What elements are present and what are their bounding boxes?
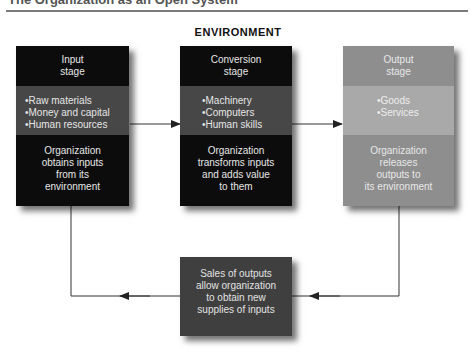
input-stage-title-line1: Input [16,54,129,66]
input-item-money-capital: •Money and capital [25,107,129,119]
output-desc-line: outputs to [343,169,454,181]
input-stage-title-line2: stage [16,66,129,78]
input-desc-line: Organization [16,145,129,157]
input-desc-line: environment [16,181,129,193]
conversion-desc-line: and adds value [180,169,292,181]
output-stage-box: Output stage •Goods •Services Organizati… [343,46,454,206]
conversion-stage-header: Conversion stage [180,46,292,86]
feedback-line: to obtain new [180,292,292,304]
output-stage-header: Output stage [343,46,454,86]
output-stage-items: •Goods •Services [343,86,454,135]
input-stage-header: Input stage [16,46,129,86]
output-desc-line: its environment [343,181,454,193]
conversion-item-computers: •Computers [202,107,292,119]
input-item-human-resources: •Human resources [25,119,129,131]
feedback-line: Sales of outputs [180,268,292,280]
conversion-desc-line: Organization [180,145,292,157]
output-item-goods: •Goods [377,95,454,107]
output-stage-title-line2: stage [343,66,454,78]
conversion-desc-line: to them [180,181,292,193]
input-stage-items: •Raw materials •Money and capital •Human… [16,86,129,135]
conversion-stage-title-line1: Conversion [180,54,292,66]
output-stage-title-line1: Output [343,54,454,66]
output-stage-description: Organization releases outputs to its env… [343,135,454,206]
conversion-desc-line: transforms inputs [180,157,292,169]
feedback-line: allow organization [180,280,292,292]
input-stage-description: Organization obtains inputs from its env… [16,135,129,206]
input-item-raw-materials: •Raw materials [25,95,129,107]
conversion-item-machinery: •Machinery [202,95,292,107]
conversion-item-human-skills: •Human skills [202,119,292,131]
input-desc-line: obtains inputs [16,157,129,169]
output-desc-line: Organization [343,145,454,157]
output-desc-line: releases [343,157,454,169]
line-output-to-feedback [292,206,399,296]
input-stage-box: Input stage •Raw materials •Money and ca… [16,46,129,206]
input-desc-line: from its [16,169,129,181]
conversion-stage-box: Conversion stage •Machinery •Computers •… [180,46,292,206]
feedback-box: Sales of outputs allow organization to o… [180,257,292,336]
output-item-services: •Services [377,107,454,119]
conversion-stage-title-line2: stage [180,66,292,78]
conversion-stage-description: Organization transforms inputs and adds … [180,135,292,206]
feedback-line: supplies of inputs [180,304,292,316]
conversion-stage-items: •Machinery •Computers •Human skills [180,86,292,135]
line-feedback-to-input [71,206,180,296]
